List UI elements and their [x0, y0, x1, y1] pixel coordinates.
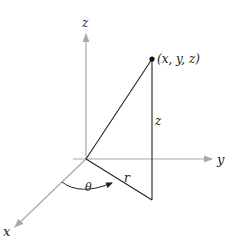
y-axis-label: y	[216, 152, 225, 167]
radius-label: r	[124, 171, 131, 185]
diagram-svg: z y x (x, y, z) z r θ	[0, 0, 241, 241]
x-axis-label: x	[3, 224, 11, 239]
z-axis-label: z	[81, 16, 89, 30]
x-axis	[15, 159, 86, 227]
point-label: (x, y, z)	[157, 52, 200, 66]
radius-line	[86, 159, 152, 200]
position-vector	[86, 59, 152, 159]
theta-label: θ	[85, 181, 92, 194]
point-marker	[149, 56, 154, 61]
height-label: z	[154, 114, 162, 128]
cylindrical-coordinates-diagram: z y x (x, y, z) z r θ	[0, 0, 241, 241]
